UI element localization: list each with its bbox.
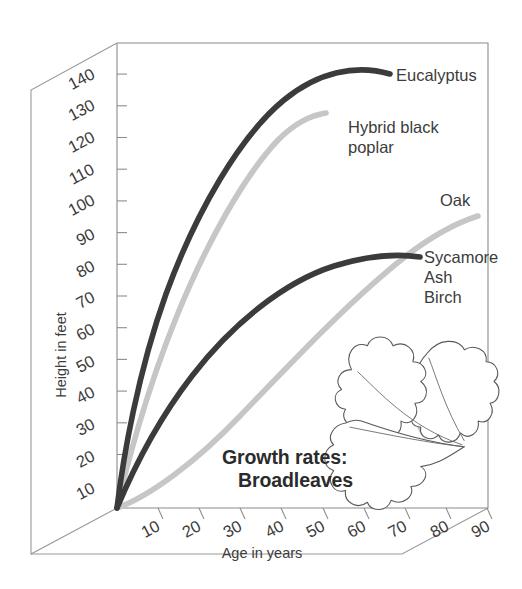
series-label-hybrid-black-poplar-line2: poplar <box>348 138 394 156</box>
series-label-oak: Oak <box>440 191 471 209</box>
y-tick-label: 20 <box>73 447 97 471</box>
chart-title-line2: Broadleaves <box>238 469 353 491</box>
y-tick-label: 130 <box>65 95 97 124</box>
y-tick-label: 80 <box>73 257 97 281</box>
x-tick-label: 30 <box>220 517 244 541</box>
chart-figure: 10 20 30 40 50 60 70 80 90 100 110 120 1… <box>0 0 522 589</box>
y-tick-label: 60 <box>73 320 97 344</box>
y-tick-label: 10 <box>73 479 97 503</box>
x-tick-label: 20 <box>179 517 203 541</box>
series-label-ash: Ash <box>424 268 452 286</box>
y-tick-label: 110 <box>66 160 97 188</box>
y-tick-label: 120 <box>65 127 97 156</box>
y-tick-label: 50 <box>73 352 97 376</box>
y-tick-label: 90 <box>73 225 97 249</box>
y-tick-label: 70 <box>73 288 97 312</box>
x-tick-label: 10 <box>138 517 162 541</box>
y-axis-tick-labels: 10 20 30 40 50 60 70 80 90 100 110 120 1… <box>65 64 97 502</box>
x-tick-label: 50 <box>303 517 327 541</box>
growth-rates-chart: 10 20 30 40 50 60 70 80 90 100 110 120 1… <box>0 0 522 589</box>
y-axis-ticks <box>117 74 127 486</box>
x-axis-tick-labels: 10 20 30 40 50 60 70 80 90 <box>138 517 492 541</box>
x-tick-label: 40 <box>262 517 286 541</box>
y-tick-label: 100 <box>65 190 97 219</box>
y-tick-label: 30 <box>73 415 97 439</box>
chart-title-line1: Growth rates: <box>222 446 347 468</box>
x-tick-label: 80 <box>427 517 451 541</box>
y-axis-title: Height in feet <box>53 312 69 397</box>
series-label-eucalyptus: Eucalyptus <box>396 66 477 84</box>
x-tick-label: 60 <box>344 517 368 541</box>
y-tick-label: 40 <box>73 383 97 407</box>
series-label-sycamore: Sycamore <box>424 248 498 266</box>
x-tick-label: 70 <box>385 517 409 541</box>
x-tick-label: 90 <box>468 517 492 541</box>
x-axis-title: Age in years <box>222 545 303 561</box>
series-label-hybrid-black-poplar-line1: Hybrid black <box>348 118 440 136</box>
series-label-birch: Birch <box>424 288 462 306</box>
